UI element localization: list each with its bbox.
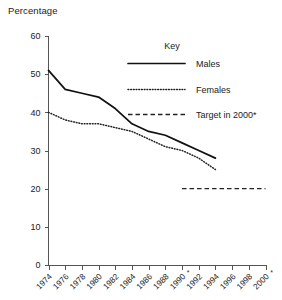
x-tick-label: 1996 (218, 272, 238, 292)
x-tick-label: 1984 (118, 272, 138, 292)
x-tick-label: 1988 (152, 272, 172, 292)
x-tick-label: 1982 (101, 272, 121, 292)
x-tick-label: 1974 (35, 272, 55, 292)
x-tick-label: 1986 (135, 272, 155, 292)
legend-label-females: Females (196, 85, 231, 95)
x-tick-asterisk: * (270, 269, 273, 276)
y-tick-label: 40 (30, 108, 40, 118)
line-chart-plot: 0102030405060 19741976197819801982198419… (0, 0, 282, 300)
x-tick-label: 1976 (51, 272, 71, 292)
x-tick-label: 2000 (252, 272, 272, 292)
legend-label-target: Target in 2000* (196, 110, 257, 120)
legend-title: Key (164, 41, 180, 51)
y-tick-group: 0102030405060 (30, 31, 48, 270)
x-tick-label: 1990 (168, 272, 188, 292)
chart-container: Percentage 0102030405060 197419761978198… (0, 0, 282, 300)
y-tick-label: 60 (30, 31, 40, 41)
x-tick-asterisk: * (187, 269, 190, 276)
x-tick-label: 1994 (202, 272, 222, 292)
x-tick-group: 197419761978198019821984198619881990*199… (35, 265, 273, 291)
chart-legend: Key Males Females Target in 2000* (128, 41, 257, 120)
y-tick-label: 10 (30, 222, 40, 232)
series-line-females (49, 112, 216, 169)
y-tick-label: 20 (30, 184, 40, 194)
y-tick-label: 50 (30, 69, 40, 79)
legend-label-males: Males (196, 59, 221, 69)
y-tick-label: 0 (35, 260, 40, 270)
x-tick-label: 1998 (235, 272, 255, 292)
x-tick-label: 1980 (85, 272, 105, 292)
x-tick-label: 1978 (68, 272, 88, 292)
axis-group (49, 36, 267, 266)
y-tick-label: 30 (30, 146, 40, 156)
